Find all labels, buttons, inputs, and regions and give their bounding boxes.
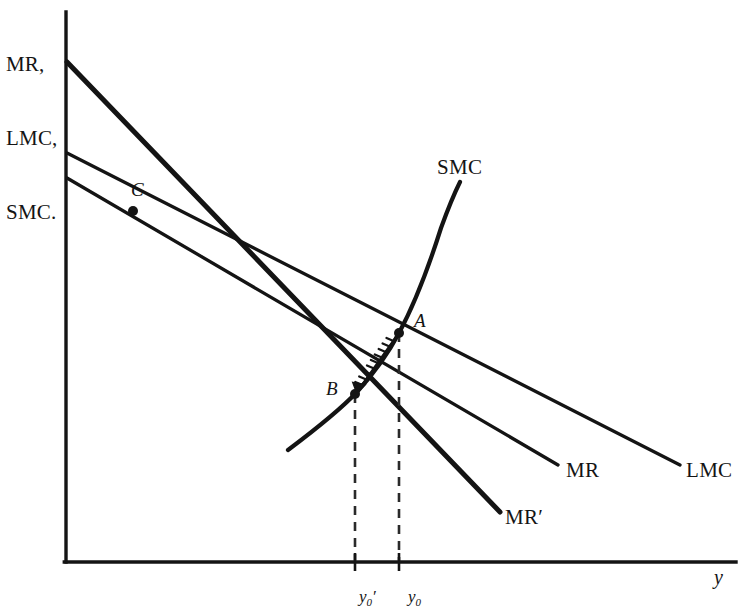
x-tick-label-y0-prime: y0′ [342,567,376,610]
mr-line [67,178,558,465]
x-tick-y0-sub: 0 [416,596,422,608]
point-b-label: B [326,378,338,400]
point-c-marker [128,206,138,216]
x-tick-label-y0: y0 [391,567,421,610]
y-axis-label-line-3: SMC. [6,200,58,225]
point-a-label: A [414,310,426,332]
point-b-marker [350,389,360,399]
point-a-marker [394,328,404,338]
y-axis-label: MR, LMC, SMC. [6,2,58,274]
x-tick-y0-prime-base: y [359,587,367,606]
mr-prime-curve-label: MR′ [505,505,543,530]
lmc-curve-label: LMC [686,458,732,483]
mr-curve-label: MR [566,458,599,483]
y-axis-label-line-2: LMC, [6,126,58,151]
x-axis-label: y [714,566,723,590]
curves-group [67,62,680,512]
smc-curve-label: SMC [437,155,482,180]
y-axis-label-line-1: MR, [6,52,58,77]
x-tick-y0-base: y [408,587,416,606]
mr-prime-line [67,62,500,512]
lmc-line [67,153,680,465]
point-c-label: C [131,179,144,201]
x-tick-y0-prime-mark: ′ [372,587,376,606]
